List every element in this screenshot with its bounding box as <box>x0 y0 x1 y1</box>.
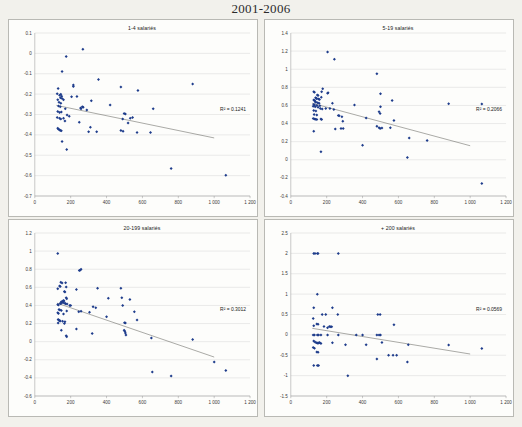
page-title: 2001-2006 <box>0 1 522 17</box>
panel-title-5-19-salaries: 5-19 salariés <box>265 25 513 31</box>
svg-text:1 200: 1 200 <box>500 400 512 405</box>
svg-text:800: 800 <box>174 400 182 405</box>
svg-text:-0.2: -0.2 <box>24 92 32 97</box>
panel-title-plus-200-salaries: + 200 salariés <box>265 225 513 231</box>
scatter-plot-plus-200-salaries: -1.5-1-0.500.511.522.502004006008001 000… <box>265 220 513 416</box>
svg-text:800: 800 <box>430 200 438 205</box>
svg-text:1: 1 <box>29 249 32 254</box>
svg-text:2: 2 <box>285 251 288 256</box>
svg-text:800: 800 <box>430 400 438 405</box>
svg-text:0: 0 <box>285 332 288 337</box>
svg-text:-0.4: -0.4 <box>280 194 288 199</box>
svg-text:600: 600 <box>395 200 403 205</box>
svg-text:1 000: 1 000 <box>464 400 476 405</box>
svg-text:200: 200 <box>323 200 331 205</box>
panel-title-1-4-salaries: 1-4 salariés <box>9 25 257 31</box>
svg-text:R² = 0.2066: R² = 0.2066 <box>476 106 502 112</box>
svg-text:0.2: 0.2 <box>25 321 32 326</box>
svg-text:-0.2: -0.2 <box>280 175 288 180</box>
svg-text:-1: -1 <box>284 373 289 378</box>
svg-text:-0.6: -0.6 <box>24 394 32 399</box>
svg-text:200: 200 <box>67 400 75 405</box>
svg-text:0.4: 0.4 <box>281 121 288 126</box>
svg-text:400: 400 <box>103 200 111 205</box>
svg-text:0.5: 0.5 <box>281 312 288 317</box>
svg-text:1 200: 1 200 <box>244 400 256 405</box>
svg-text:0: 0 <box>29 339 32 344</box>
chart-panel-grid: -0.7-0.6-0.5-0.4-0.3-0.2-0.100.102004006… <box>8 19 514 417</box>
svg-text:400: 400 <box>103 400 111 405</box>
panel-title-20-199-salaries: 20-199 salariés <box>9 225 257 231</box>
svg-text:0.6: 0.6 <box>281 103 288 108</box>
svg-text:-0.6: -0.6 <box>24 173 32 178</box>
svg-text:-0.1: -0.1 <box>24 71 32 76</box>
svg-text:600: 600 <box>139 200 147 205</box>
svg-text:R² = 0.3012: R² = 0.3012 <box>220 306 246 312</box>
svg-text:0.1: 0.1 <box>25 31 32 36</box>
scatter-plot-5-19-salaries: -0.4-0.200.20.40.60.811.21.4020040060080… <box>265 20 513 216</box>
svg-text:0.2: 0.2 <box>281 139 288 144</box>
svg-text:600: 600 <box>395 400 403 405</box>
svg-text:1: 1 <box>285 292 288 297</box>
svg-text:-0.3: -0.3 <box>24 112 32 117</box>
svg-text:0: 0 <box>285 157 288 162</box>
svg-text:0: 0 <box>290 400 293 405</box>
svg-text:1 000: 1 000 <box>208 200 220 205</box>
svg-text:1 000: 1 000 <box>208 400 220 405</box>
svg-text:-0.2: -0.2 <box>24 357 32 362</box>
svg-text:0.8: 0.8 <box>281 85 288 90</box>
chart-panel-5-19-salaries: -0.4-0.200.20.40.60.811.21.4020040060080… <box>264 19 514 217</box>
svg-text:1 200: 1 200 <box>244 200 256 205</box>
svg-text:1: 1 <box>285 67 288 72</box>
svg-text:600: 600 <box>139 400 147 405</box>
svg-text:-0.4: -0.4 <box>24 375 32 380</box>
svg-text:-1.5: -1.5 <box>280 394 288 399</box>
svg-text:800: 800 <box>174 200 182 205</box>
svg-text:1.2: 1.2 <box>25 231 32 236</box>
svg-text:0: 0 <box>290 200 293 205</box>
svg-text:200: 200 <box>323 400 331 405</box>
svg-text:0: 0 <box>34 200 37 205</box>
svg-text:0.8: 0.8 <box>25 267 32 272</box>
chart-panel-plus-200-salaries: -1.5-1-0.500.511.522.502004006008001 000… <box>264 219 514 417</box>
svg-text:400: 400 <box>359 400 367 405</box>
svg-text:0: 0 <box>34 400 37 405</box>
chart-panel-20-199-salaries: -0.6-0.4-0.200.20.40.60.811.202004006008… <box>8 219 258 417</box>
svg-text:400: 400 <box>359 200 367 205</box>
scatter-plot-1-4-salaries: -0.7-0.6-0.5-0.4-0.3-0.2-0.100.102004006… <box>9 20 257 216</box>
svg-text:1.2: 1.2 <box>281 49 288 54</box>
svg-text:1 200: 1 200 <box>500 200 512 205</box>
svg-text:1.4: 1.4 <box>281 31 288 36</box>
svg-text:-0.4: -0.4 <box>24 132 32 137</box>
svg-text:-0.5: -0.5 <box>280 353 288 358</box>
svg-text:0.6: 0.6 <box>25 285 32 290</box>
chart-panel-1-4-salaries: -0.7-0.6-0.5-0.4-0.3-0.2-0.100.102004006… <box>8 19 258 217</box>
svg-text:2.5: 2.5 <box>281 231 288 236</box>
svg-text:200: 200 <box>67 200 75 205</box>
svg-text:1 000: 1 000 <box>464 200 476 205</box>
svg-text:R² = 0.0569: R² = 0.0569 <box>476 306 502 312</box>
svg-text:-0.7: -0.7 <box>24 194 32 199</box>
svg-text:0: 0 <box>29 51 32 56</box>
scatter-plot-20-199-salaries: -0.6-0.4-0.200.20.40.60.811.202004006008… <box>9 220 257 416</box>
svg-text:R² = 0.1241: R² = 0.1241 <box>220 106 246 112</box>
svg-text:0.4: 0.4 <box>25 303 32 308</box>
svg-text:-0.5: -0.5 <box>24 153 32 158</box>
svg-text:1.5: 1.5 <box>281 271 288 276</box>
